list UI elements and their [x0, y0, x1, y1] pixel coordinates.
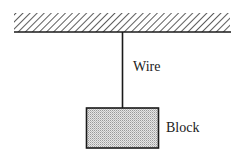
- diagram-canvas: Wire Block: [0, 0, 244, 155]
- block: [87, 108, 159, 148]
- ceiling-hatch: [14, 13, 230, 32]
- wire-label: Wire: [133, 59, 160, 74]
- block-label: Block: [166, 120, 199, 135]
- ceiling: [14, 13, 231, 32]
